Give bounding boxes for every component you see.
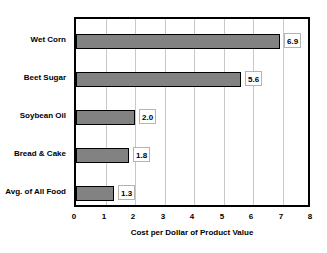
x-tick-label: 1 <box>94 212 114 221</box>
bar <box>76 148 129 163</box>
y-axis-label: Beet Sugar <box>24 70 66 85</box>
bar-value-label: 1.3 <box>118 185 135 200</box>
bar-row: 6.9 <box>76 34 312 49</box>
bar <box>76 34 280 49</box>
bar-value-label: 5.6 <box>245 71 262 86</box>
x-tick-label: 8 <box>300 212 320 221</box>
x-tick-label: 6 <box>241 212 261 221</box>
x-tick-label: 3 <box>153 212 173 221</box>
bar <box>76 72 241 87</box>
x-tick-label: 4 <box>182 212 202 221</box>
x-axis-title: Cost per Dollar of Product Value <box>74 228 310 237</box>
bars-layer: 6.95.62.01.81.3 <box>76 19 308 205</box>
y-axis-label: Avg. of All Food <box>5 184 66 199</box>
x-tick-label: 0 <box>64 212 84 221</box>
bar-row: 5.6 <box>76 72 312 87</box>
bar-value-label: 6.9 <box>284 33 301 48</box>
bar <box>76 110 135 125</box>
bar-row: 1.8 <box>76 148 312 163</box>
y-axis-label: Bread & Cake <box>14 146 66 161</box>
bar-value-label: 2.0 <box>139 109 156 124</box>
plot-area: 6.95.62.01.81.3 <box>74 17 310 207</box>
x-tick-label: 5 <box>212 212 232 221</box>
bar-row: 2.0 <box>76 110 312 125</box>
x-axis-tick-labels: 012345678 <box>74 209 310 223</box>
bar-chart: Wet CornBeet SugarSoybean OilBread & Cak… <box>0 0 327 253</box>
x-tick-label: 2 <box>123 212 143 221</box>
bar <box>76 186 114 201</box>
x-tick-label: 7 <box>271 212 291 221</box>
bar-row: 1.3 <box>76 186 312 201</box>
bar-value-label: 1.8 <box>133 147 150 162</box>
y-axis-category-labels: Wet CornBeet SugarSoybean OilBread & Cak… <box>0 17 70 207</box>
y-axis-label: Wet Corn <box>31 32 66 47</box>
y-axis-label: Soybean Oil <box>20 108 66 123</box>
